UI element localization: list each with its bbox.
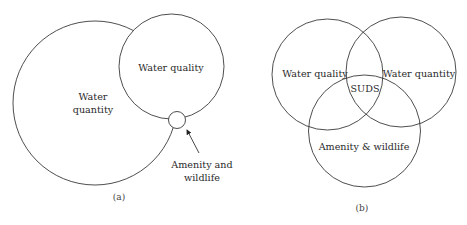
amenity-label-line1: Amenity and [170,159,232,170]
amenity-label-line2: wildlife [184,172,220,183]
water-quantity-label-line1: Water [79,91,108,102]
suds-label: SUDS [351,83,380,94]
water-quality-label-b: Water quality [282,68,348,79]
caption-a: (a) [113,192,125,202]
arrow-icon [187,130,199,153]
water-quantity-label-b: Water quantity [383,68,456,79]
diagram-a: Water quantity Water quality Amenity and… [13,14,233,202]
caption-b: (b) [356,203,369,213]
amenity-wildlife-label-b: Amenity & wildlife [318,141,410,152]
suds-venn-figure: Water quantity Water quality Amenity and… [0,0,467,225]
water-quantity-label-line2: quantity [73,104,114,115]
diagram-b: Water quality Water quantity SUDS Amenit… [272,17,456,213]
water-quality-label-a: Water quality [138,62,204,73]
